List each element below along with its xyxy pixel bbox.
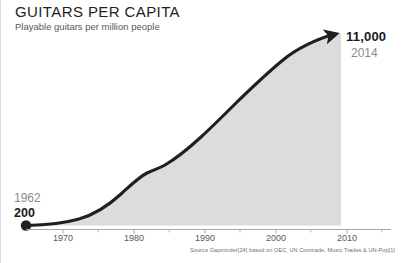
start-value-label: 200: [14, 207, 35, 220]
x-tick-label-1980: 1980: [124, 233, 144, 243]
end-value-label: 11,000: [346, 30, 386, 43]
start-year-label: 1962: [14, 192, 41, 204]
end-year-label: 2014: [351, 47, 378, 59]
x-tick-label-2000: 2000: [266, 233, 286, 243]
x-tick-label-2010: 2010: [337, 233, 357, 243]
area-fill: [26, 34, 341, 226]
source-note: Source Gapminder[24] based on OEC, UN Co…: [190, 247, 395, 253]
area-chart-plot: [1, 0, 405, 263]
x-tick-label-1990: 1990: [195, 233, 215, 243]
chart-figure: GUITARS PER CAPITA Playable guitars per …: [0, 0, 405, 263]
x-tick-label-1970: 1970: [53, 233, 73, 243]
